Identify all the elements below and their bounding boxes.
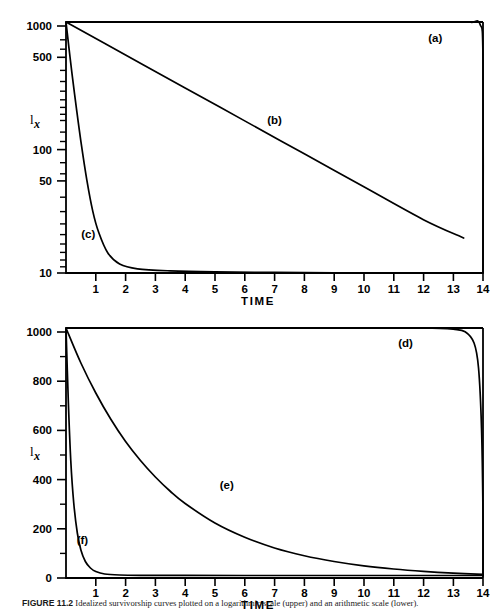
figure-caption: FIGURE 11.2 Idealized survivorship curve… <box>22 598 492 612</box>
upper-plot-x-ticks <box>96 273 483 281</box>
upper-xtick-label-8: 8 <box>301 283 308 295</box>
curve-c <box>66 22 483 273</box>
upper-xtick-label-10: 10 <box>358 283 371 295</box>
upper-ytick-label-2: 100 <box>33 144 52 156</box>
lower-ytick-label-0: 0 <box>46 572 52 584</box>
upper-xtick-label-5: 5 <box>212 283 219 295</box>
upper-plot-y-axis-title: l x <box>30 112 40 131</box>
upper-plot: 1000 500 100 50 10 l x <box>26 20 490 307</box>
upper-plot-x-axis-title: TIME <box>241 295 275 307</box>
figure-caption-text: Idealized survivorship curves plotted on… <box>75 598 418 608</box>
upper-xtick-label-12: 12 <box>417 283 430 295</box>
upper-xtick-label-13: 13 <box>447 283 460 295</box>
upper-xtick-label-11: 11 <box>388 283 401 295</box>
lower-ytick-label-200: 200 <box>33 523 52 535</box>
svg-text:x: x <box>33 449 40 463</box>
figure-caption-label: FIGURE 11.2 <box>22 598 73 608</box>
upper-xtick-label-7: 7 <box>271 283 277 295</box>
lower-plot-x-ticks <box>96 578 483 586</box>
upper-ytick-label-1: 500 <box>33 51 52 63</box>
svg-text:x: x <box>33 117 40 131</box>
curve-e <box>66 328 483 574</box>
lower-ytick-label-600: 600 <box>33 424 52 436</box>
lower-plot-y-axis-title: l x <box>30 444 40 463</box>
curve-a-label: (a) <box>428 32 442 44</box>
lower-ytick-label-1000: 1000 <box>26 326 52 338</box>
lower-ytick-label-400: 400 <box>33 474 52 486</box>
upper-plot-y-ticks <box>57 26 66 273</box>
upper-plot-axes <box>66 22 483 273</box>
lower-plot-axes <box>66 328 483 578</box>
curve-b-label: (b) <box>267 114 282 126</box>
lower-plot: 1000 800 600 400 200 0 l x <box>26 326 490 611</box>
curve-d <box>66 328 483 576</box>
curve-f <box>66 328 483 576</box>
upper-xtick-label-4: 4 <box>182 283 189 295</box>
upper-xtick-label-2: 2 <box>122 283 128 295</box>
upper-xtick-label-6: 6 <box>242 283 248 295</box>
curve-b <box>66 22 464 238</box>
upper-ytick-label-4: 10 <box>39 267 52 279</box>
curve-f-label: (f) <box>77 534 89 546</box>
lower-ytick-label-800: 800 <box>33 375 52 387</box>
curve-e-label: (e) <box>220 479 234 491</box>
upper-ytick-label-0: 1000 <box>26 20 52 32</box>
upper-xtick-label-3: 3 <box>152 283 158 295</box>
survivorship-curves-figure: 1000 500 100 50 10 l x <box>0 0 502 612</box>
upper-xtick-label-9: 9 <box>331 283 337 295</box>
curve-c-label: (c) <box>81 228 95 240</box>
curve-d-label: (d) <box>398 337 413 349</box>
upper-xtick-label-1: 1 <box>93 283 100 295</box>
figure-container: 1000 500 100 50 10 l x <box>0 0 502 612</box>
upper-ytick-label-3: 50 <box>39 175 52 187</box>
upper-xtick-label-14: 14 <box>477 283 490 295</box>
curve-a <box>66 21 483 273</box>
